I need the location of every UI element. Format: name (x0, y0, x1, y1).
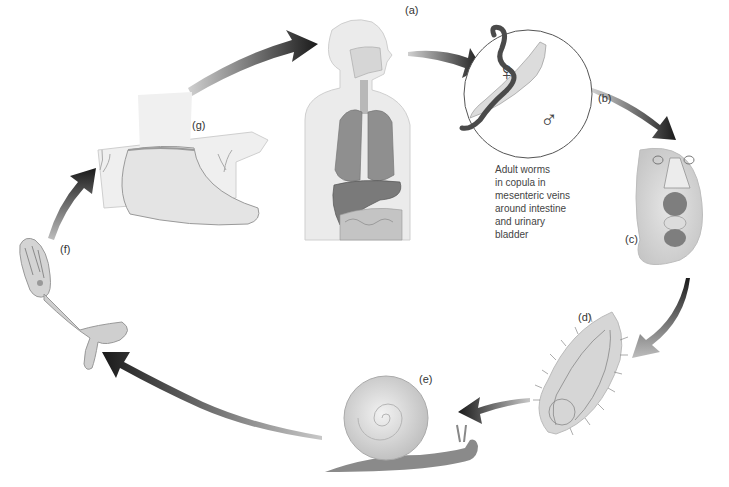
caption-line: Adult worms (495, 163, 615, 176)
arrow-e-to-f (102, 352, 322, 440)
stage-label-g: (g) (192, 119, 205, 131)
stage-label-e: (e) (419, 373, 432, 385)
male-symbol: ♂ (540, 106, 558, 133)
caption-line: in copula in (495, 176, 615, 189)
snail-illustration (325, 376, 478, 472)
adult-worms-illustration: ♀ ♂ (462, 27, 592, 158)
arrow-c-to-d (632, 278, 690, 358)
life-cycle-diagram: ♀ ♂ (0, 0, 729, 487)
adult-worms-caption: Adult worms in copula in mesenteric vein… (495, 163, 615, 241)
egg-illustration (636, 148, 703, 264)
caption-line: and urinary (495, 215, 615, 228)
arrow-d-to-e (458, 397, 530, 424)
female-symbol: ♀ (497, 56, 517, 86)
foot-illustration (98, 92, 268, 225)
stage-label-c: (c) (625, 233, 638, 245)
caption-line: mesenteric veins (495, 189, 615, 202)
stage-label-f: (f) (60, 243, 70, 255)
stage-label-d: (d) (578, 311, 591, 323)
arrow-g-to-a (188, 30, 318, 96)
human-host-illustration (305, 20, 410, 240)
caption-line: around intestine (495, 202, 615, 215)
stage-label-a: (a) (405, 4, 418, 16)
caption-line: bladder (495, 228, 615, 241)
arrow-f-to-g (48, 168, 96, 240)
stage-label-b: (b) (598, 92, 611, 104)
cercaria-illustration (20, 238, 128, 369)
miracidium-illustration (533, 312, 628, 435)
